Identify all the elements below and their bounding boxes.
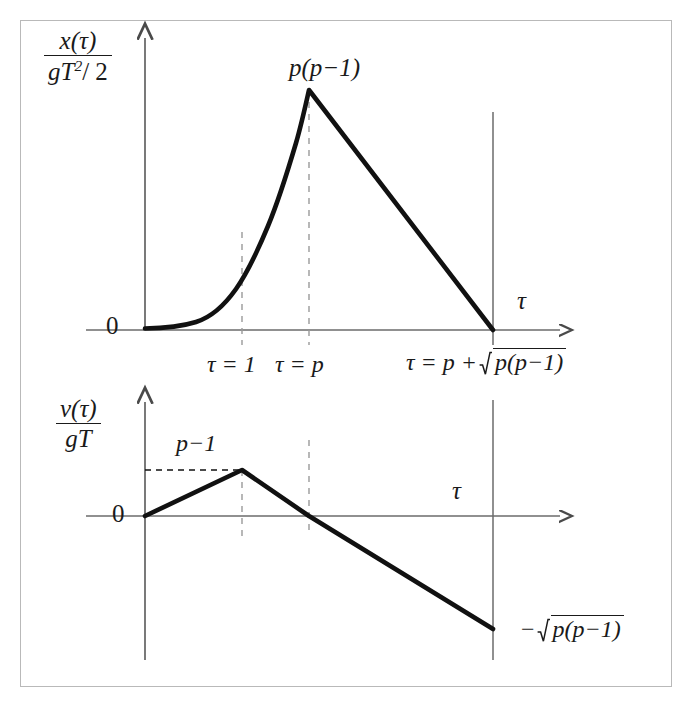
figure-root: x(τ) gT2/ 2 p(p−1) 0 τ τ = 1 τ = p τ = p… [0,0,693,708]
lower-plot-group [86,400,560,660]
sqrt-icon: p(p−1) [535,615,624,643]
velocity-curve [145,470,493,629]
lower-end-label-radicand: p(p−1) [551,615,624,642]
lower-y-axis-label: v(τ) gT [56,396,101,453]
lower-y-axis-denominator: gT [56,424,101,452]
lower-peak-label: p−1 [176,431,216,456]
upper-tick-tau-1: τ = 1 [207,352,256,377]
upper-y-axis-numerator: x(τ) [44,28,112,56]
lower-end-label: −p(p−1) [521,615,624,643]
upper-tick-tau-end: τ = p +p(p−1) [406,348,566,376]
lower-end-label-sign: − [521,616,535,642]
lower-x-axis-label: τ [452,478,461,504]
upper-tick-tau-end-prefix: τ = p + [406,349,477,375]
lower-y-axis-numerator: v(τ) [56,396,101,424]
sqrt-icon: p(p−1) [477,348,566,376]
upper-tick-tau-end-radicand: p(p−1) [493,348,566,375]
upper-peak-label: p(p−1) [289,55,360,81]
upper-plot-group [86,38,560,345]
upper-origin-label: 0 [106,313,119,339]
upper-tick-tau-p: τ = p [275,352,324,377]
plot-canvas [0,0,693,708]
upper-x-axis-label: τ [517,288,526,314]
upper-y-axis-denominator: gT2/ 2 [44,56,112,86]
position-curve [145,90,493,330]
upper-y-axis-label: x(τ) gT2/ 2 [44,28,112,86]
lower-origin-label: 0 [112,501,125,527]
